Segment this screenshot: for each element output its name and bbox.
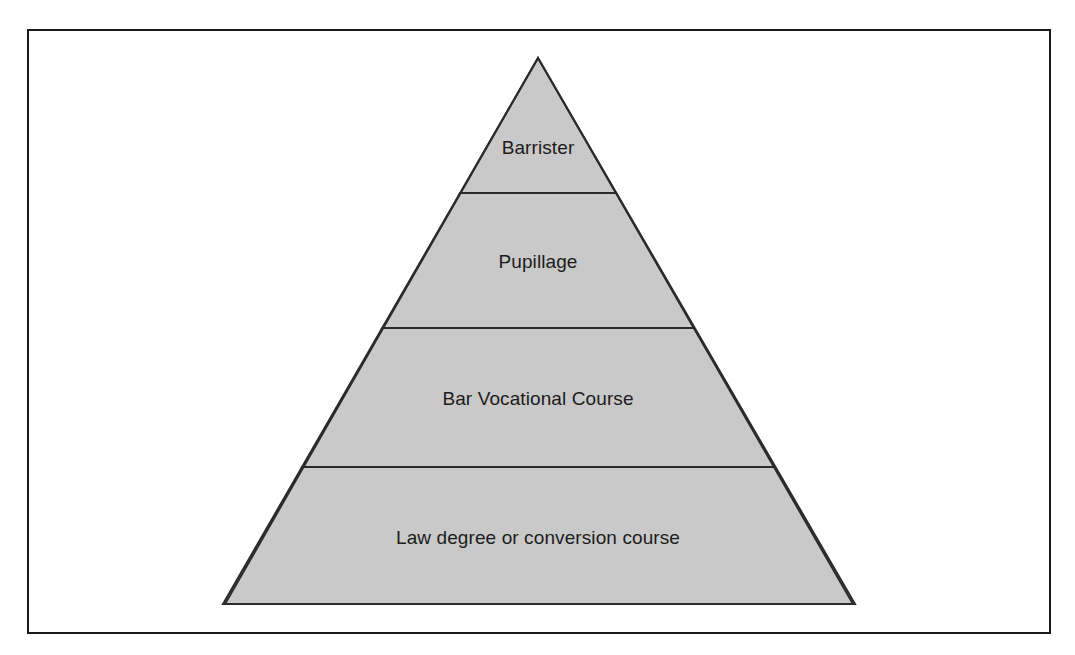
pyramid-tier-law-degree[interactable] [223, 467, 853, 604]
pyramid-diagram [0, 0, 1075, 655]
figure-root: Barrister Pupillage Bar Vocational Cours… [0, 0, 1075, 655]
pyramid-tier-bar-vocational-course[interactable] [302, 328, 774, 467]
pyramid-tier-pupillage[interactable] [382, 193, 694, 328]
pyramid-tier-barrister[interactable] [460, 58, 616, 193]
